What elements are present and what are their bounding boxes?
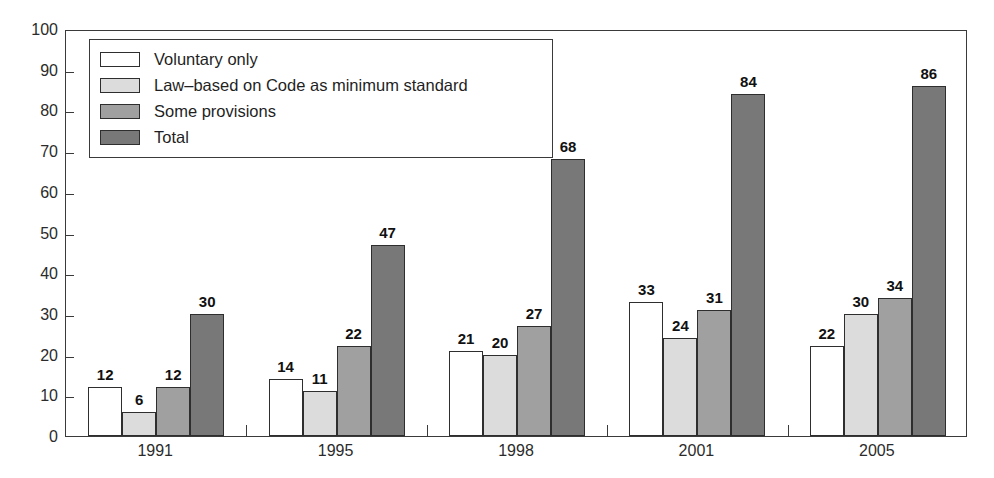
bar <box>303 391 337 436</box>
bar <box>190 314 224 436</box>
bar <box>122 412 156 436</box>
bar-value-label: 12 <box>80 367 130 382</box>
legend-item: Voluntary only <box>100 46 542 72</box>
legend-item: Some provisions <box>100 98 542 124</box>
plot-area: 126123014112247212027683324318422303486 … <box>65 30 967 437</box>
bar <box>517 326 551 436</box>
bar <box>844 314 878 436</box>
y-axis-tick-label: 0 <box>16 429 58 445</box>
y-axis-label-group: 0102030405060708090100 <box>8 30 58 437</box>
bar <box>449 351 483 436</box>
bar <box>269 379 303 436</box>
bar-value-label: 84 <box>723 74 773 89</box>
bar <box>878 298 912 436</box>
x-axis-separator-tick <box>427 425 428 436</box>
x-axis-tick-label-1998: 1998 <box>498 443 534 459</box>
bar-value-label: 30 <box>182 294 232 309</box>
legend-swatch-some-provisions-icon <box>100 104 140 119</box>
bar-chart: 0102030405060708090100 12612301411224721… <box>0 0 994 478</box>
y-axis-tick-label: 50 <box>16 226 58 242</box>
x-axis-label-group: 19911995199820012005 <box>65 443 967 467</box>
y-axis-tick-label: 30 <box>16 307 58 323</box>
bar <box>551 159 585 436</box>
x-axis-tick-label-1991: 1991 <box>137 443 173 459</box>
legend-swatch-voluntary-only-icon <box>100 52 140 67</box>
y-axis-tick-label: 40 <box>16 266 58 282</box>
x-axis-separator-tick <box>607 425 608 436</box>
bar <box>483 355 517 436</box>
legend-item: Total <box>100 124 542 150</box>
x-axis-separator-tick <box>788 425 789 436</box>
x-axis-tick-label-1995: 1995 <box>318 443 354 459</box>
bar <box>663 338 697 436</box>
bar <box>337 346 371 436</box>
legend-item-label: Voluntary only <box>154 51 258 68</box>
bar-value-label: 86 <box>904 66 954 81</box>
x-axis-tick-label-2005: 2005 <box>859 443 895 459</box>
y-axis-tick-label: 20 <box>16 348 58 364</box>
bar-value-label: 47 <box>363 225 413 240</box>
x-axis-separator-tick <box>246 425 247 436</box>
legend-item-label: Some provisions <box>154 103 276 120</box>
bar <box>912 86 946 436</box>
bar <box>371 245 405 436</box>
bar <box>697 310 731 436</box>
bar <box>810 346 844 436</box>
y-axis-tick-label: 100 <box>16 22 58 38</box>
legend-swatch-law-based-icon <box>100 78 140 93</box>
chart-legend: Voluntary onlyLaw–based on Code as minim… <box>89 39 553 158</box>
y-axis-tick-label: 70 <box>16 144 58 160</box>
y-axis-tick-label: 10 <box>16 388 58 404</box>
bar-group-2001: 33243184 <box>629 31 765 436</box>
legend-swatch-total-icon <box>100 130 140 145</box>
y-axis-tick-label: 90 <box>16 63 58 79</box>
legend-item-label: Total <box>154 129 189 146</box>
bar-value-label: 33 <box>621 282 671 297</box>
legend-item-label: Law–based on Code as minimum standard <box>154 77 468 94</box>
y-axis-tick-label: 60 <box>16 185 58 201</box>
x-axis-tick-label-2001: 2001 <box>679 443 715 459</box>
y-axis-tick-label: 80 <box>16 103 58 119</box>
legend-item: Law–based on Code as minimum standard <box>100 72 542 98</box>
bar <box>731 94 765 436</box>
bar-group-2005: 22303486 <box>810 31 946 436</box>
bar <box>156 387 190 436</box>
